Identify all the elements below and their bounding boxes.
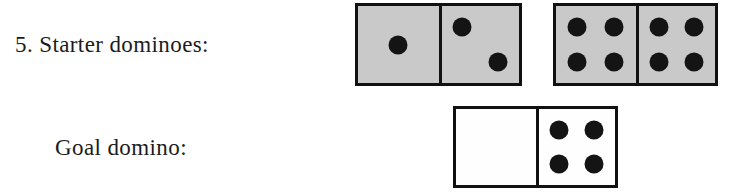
pip-icon — [585, 155, 604, 174]
goal-domino-left-half — [456, 109, 536, 185]
pip-icon — [605, 53, 624, 72]
pip-icon — [550, 155, 569, 174]
starter-domino-1-left-half — [358, 6, 439, 83]
starter-dominoes-label: 5. Starter dominoes: — [15, 33, 209, 56]
pip-icon — [550, 120, 569, 139]
pip-icon — [389, 35, 408, 54]
starter-domino-1-right-half — [439, 6, 520, 83]
starter-domino-2-right-half — [636, 6, 716, 83]
starter-domino-2 — [553, 3, 718, 86]
goal-domino-label: Goal domino: — [55, 136, 187, 159]
pip-icon — [585, 120, 604, 139]
pip-icon — [568, 53, 587, 72]
starter-domino-2-left-half — [556, 6, 636, 83]
pip-icon — [650, 53, 669, 72]
starter-domino-1 — [355, 3, 522, 86]
pip-icon — [650, 17, 669, 36]
pip-icon — [489, 53, 508, 72]
worksheet-canvas: 5. Starter dominoes: Goal domino: — [0, 0, 730, 196]
pip-icon — [685, 53, 704, 72]
pip-icon — [568, 17, 587, 36]
pip-icon — [685, 17, 704, 36]
pip-icon — [453, 17, 472, 36]
goal-domino — [453, 106, 618, 188]
pip-icon — [605, 17, 624, 36]
goal-domino-right-half — [536, 109, 616, 185]
